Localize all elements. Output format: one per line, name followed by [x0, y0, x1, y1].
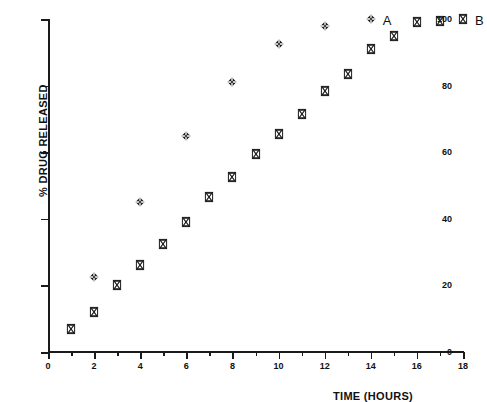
x-minor-tick-3	[117, 352, 119, 356]
data-point-B-10	[298, 109, 306, 119]
x-tick-12	[325, 352, 327, 359]
x-minor-tick-11	[302, 352, 304, 356]
data-point-B-7	[228, 172, 236, 182]
data-point-B-2	[113, 280, 121, 290]
data-point-B-9	[275, 129, 283, 139]
x-tick-4	[140, 352, 142, 359]
x-tick-label-0: 0	[45, 361, 50, 371]
x-tick-label-10: 10	[274, 361, 284, 371]
x-tick-0	[48, 352, 50, 359]
data-point-B-12	[344, 69, 352, 79]
data-point-B-8	[252, 149, 260, 159]
x-tick-16	[417, 352, 419, 359]
y-tick-20	[41, 285, 48, 287]
data-point-B-13	[367, 44, 375, 54]
x-tick-2	[94, 352, 96, 359]
x-tick-label-2: 2	[92, 361, 97, 371]
x-tick-10	[279, 352, 281, 359]
x-tick-label-12: 12	[320, 361, 330, 371]
x-minor-tick-15	[394, 352, 396, 356]
data-point-B-16	[436, 16, 444, 26]
x-tick-6	[186, 352, 188, 359]
x-tick-label-14: 14	[366, 361, 376, 371]
x-minor-tick-7	[209, 352, 211, 356]
data-point-B-5	[182, 217, 190, 227]
data-point-B-4	[159, 239, 167, 249]
x-tick-label-8: 8	[230, 361, 235, 371]
x-tick-label-6: 6	[184, 361, 189, 371]
series-label-B: B	[475, 13, 484, 28]
x-minor-tick-13	[348, 352, 350, 356]
x-tick-label-4: 4	[138, 361, 143, 371]
y-tick-40	[41, 219, 48, 221]
data-point-B-17	[459, 14, 467, 24]
y-axis-title: % DRUG RELEASED	[37, 84, 49, 197]
y-tick-0	[41, 352, 48, 354]
y-tick-100	[41, 19, 48, 21]
data-point-B-14	[390, 31, 398, 41]
x-axis-title: TIME (HOURS)	[333, 390, 413, 402]
x-minor-tick-9	[256, 352, 258, 356]
data-point-B-1	[90, 307, 98, 317]
data-point-B-6	[205, 192, 213, 202]
data-point-B-11	[321, 86, 329, 96]
data-point-B-0	[67, 324, 75, 334]
x-minor-tick-1	[71, 352, 73, 356]
x-tick-18	[463, 352, 465, 359]
data-point-B-15	[413, 17, 421, 27]
x-tick-label-18: 18	[458, 361, 468, 371]
x-tick-8	[232, 352, 234, 359]
x-tick-label-16: 16	[412, 361, 422, 371]
x-minor-tick-17	[440, 352, 442, 356]
series-B: B	[48, 19, 463, 352]
x-tick-14	[371, 352, 373, 359]
data-point-B-3	[136, 260, 144, 270]
x-minor-tick-5	[163, 352, 165, 356]
plot-area: 024681012141618 020406080100 AB TIME (HO…	[48, 19, 463, 352]
